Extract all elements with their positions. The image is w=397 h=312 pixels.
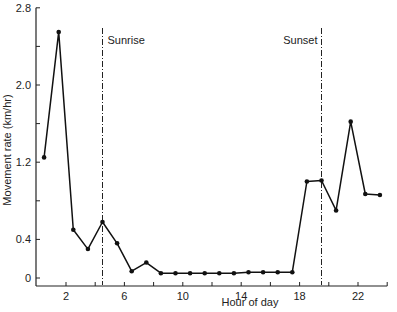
annotations: SunriseSunset bbox=[103, 28, 322, 285]
data-point bbox=[363, 192, 368, 197]
data-point bbox=[319, 178, 324, 183]
y-axis-label: Movement rate (km/hr) bbox=[1, 94, 13, 205]
x-tick-label: 6 bbox=[121, 290, 127, 302]
data-point bbox=[188, 271, 193, 276]
y-tick-label: 0.4 bbox=[16, 233, 31, 245]
data-point bbox=[129, 269, 134, 274]
data-point bbox=[86, 247, 91, 252]
series-line bbox=[44, 32, 380, 273]
y-tick-label: 0 bbox=[25, 272, 31, 284]
y-tick-label: 2.8 bbox=[16, 2, 31, 14]
x-tick-label: 18 bbox=[293, 290, 305, 302]
data-point bbox=[246, 270, 251, 275]
x-tick-label: 22 bbox=[352, 290, 364, 302]
data-point bbox=[217, 271, 222, 276]
y-tick-label: 2.0 bbox=[16, 79, 31, 91]
data-point bbox=[334, 208, 339, 213]
data-point bbox=[159, 271, 164, 276]
data-point bbox=[290, 270, 295, 275]
data-point bbox=[232, 271, 237, 276]
data-point bbox=[56, 30, 61, 35]
data-point bbox=[378, 193, 383, 198]
data-point bbox=[100, 220, 105, 225]
data-point bbox=[348, 119, 353, 124]
x-tick-label: 2 bbox=[63, 290, 69, 302]
data-point bbox=[115, 241, 120, 246]
data-point bbox=[261, 270, 266, 275]
x-axis-label: Hour of day bbox=[222, 296, 279, 308]
data-point bbox=[305, 179, 310, 184]
annotation-label-sunset: Sunset bbox=[283, 34, 317, 46]
data-point bbox=[202, 271, 207, 276]
data-point bbox=[173, 271, 178, 276]
x-tick-label: 10 bbox=[177, 290, 189, 302]
data-series bbox=[42, 30, 382, 276]
data-point bbox=[71, 227, 76, 232]
data-point bbox=[144, 260, 149, 265]
y-tick-label: 1.2 bbox=[16, 156, 31, 168]
axes: 00.41.22.02.82610141822 bbox=[16, 2, 387, 302]
annotation-label-sunrise: Sunrise bbox=[108, 34, 145, 46]
line-chart: 00.41.22.02.82610141822 SunriseSunset Ho… bbox=[0, 0, 397, 312]
data-point bbox=[42, 155, 47, 160]
data-point bbox=[275, 270, 280, 275]
